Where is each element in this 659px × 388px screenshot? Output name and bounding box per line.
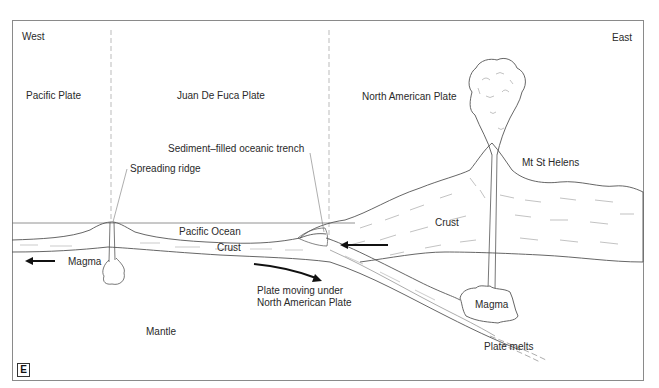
label-spreading-ridge: Spreading ridge <box>130 163 201 175</box>
panel-tag: E <box>17 363 30 377</box>
plume-texture <box>478 73 513 130</box>
label-north-american-plate: North American Plate <box>362 91 457 103</box>
subduction-arrow <box>254 264 322 282</box>
ridge-spreading-arrow <box>25 257 55 265</box>
direction-east: East <box>612 32 632 44</box>
label-juan-de-fuca-plate: Juan De Fuca Plate <box>177 90 265 102</box>
label-ridge-magma: Magma <box>68 256 101 268</box>
volcano-conduit <box>488 155 497 290</box>
ridge-magma-chamber <box>103 258 125 284</box>
label-pacific-ocean: Pacific Ocean <box>179 226 241 238</box>
label-pacific-plate: Pacific Plate <box>26 90 81 102</box>
oceanic-crust-top <box>12 222 326 243</box>
label-trench: Sediment–filled oceanic trench <box>168 143 304 155</box>
trench-leader <box>310 153 324 232</box>
label-mt-st-helens: Mt St Helens <box>522 157 579 169</box>
label-subduction-line2: North American Plate <box>257 297 352 309</box>
direction-west: West <box>22 31 45 43</box>
label-continental-crust: Crust <box>435 217 459 229</box>
frame <box>13 21 644 381</box>
label-subduction-line1: Plate moving under <box>257 285 343 297</box>
ridge-conduit <box>109 222 115 262</box>
label-arc-magma: Magma <box>475 299 508 311</box>
na-plate-motion-arrow <box>340 241 388 249</box>
tectonic-cross-section <box>0 0 659 388</box>
ridge-leader <box>113 169 127 222</box>
label-plate-melts: Plate melts <box>484 341 533 353</box>
label-oceanic-crust: Crust <box>217 242 241 254</box>
label-mantle: Mantle <box>146 326 176 338</box>
continental-crust-texture <box>350 178 634 255</box>
